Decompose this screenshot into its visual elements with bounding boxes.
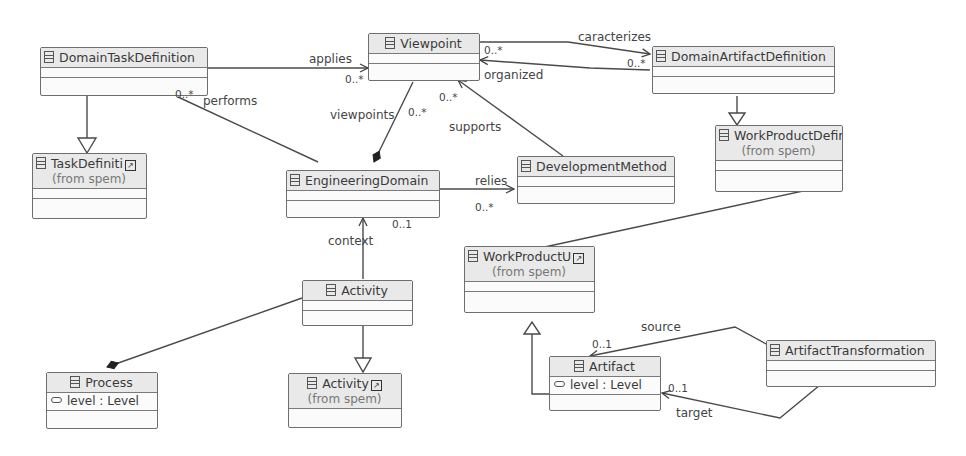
label-viewpoints: viewpoints (330, 108, 395, 122)
attributes-compartment (41, 68, 207, 78)
attribute-level: level : Level (67, 394, 139, 408)
attribute-icon (554, 381, 565, 387)
class-activity[interactable]: Activity (302, 280, 413, 326)
class-icon (770, 344, 780, 356)
class-name: Artifact (589, 359, 635, 374)
attributes-compartment (653, 67, 834, 77)
label-supports: supports (449, 120, 501, 134)
mult-performs: 0..* (175, 88, 194, 100)
mult-viewpoints: 0..* (408, 106, 427, 118)
label-performs: performs (203, 94, 257, 108)
attributes-compartment (369, 54, 479, 64)
class-name: DomainArtifactDefinition (671, 49, 826, 64)
class-engineering-domain[interactable]: EngineeringDomain (286, 170, 440, 218)
class-name: Process (85, 375, 132, 390)
association-process (107, 298, 302, 367)
mult-organized: 0..* (627, 57, 646, 69)
class-origin: (from spem) (292, 392, 397, 407)
operations-compartment (518, 187, 674, 195)
class-domain-artifact-definition[interactable]: DomainArtifactDefinition (652, 46, 835, 94)
mult-relies: 0..* (475, 201, 494, 213)
class-icon (468, 250, 478, 262)
label-relies: relies (475, 174, 507, 188)
operations-compartment (47, 411, 157, 419)
label-source: source (641, 320, 681, 334)
class-icon (656, 50, 666, 62)
class-icon (44, 51, 54, 63)
class-spem-activity[interactable]: Activity↗ (from spem) (288, 373, 402, 428)
class-name: Viewpoint (400, 36, 462, 51)
class-origin: (from spem) (36, 172, 142, 187)
external-link-icon: ↗ (125, 160, 136, 171)
mult-applies: 0..* (345, 73, 364, 85)
association-viewpoints (374, 82, 413, 162)
mult-context: 0..1 (392, 218, 412, 230)
generalization-workproductuse (532, 334, 549, 394)
attributes-compartment (33, 189, 146, 199)
class-icon (36, 157, 46, 169)
class-icon (326, 284, 336, 296)
class-icon (574, 360, 584, 372)
class-work-product-use[interactable]: WorkProductU↗ (from spem) (464, 246, 595, 313)
class-name: Activity (322, 376, 369, 391)
class-artifact-transformation[interactable]: ArtifactTransformation (766, 340, 936, 387)
class-name: WorkProductU (483, 249, 571, 264)
external-link-icon: ↗ (371, 380, 382, 391)
operations-compartment (716, 171, 842, 179)
class-name: DomainTaskDefinition (59, 50, 195, 65)
class-task-definition[interactable]: TaskDefiniti↗ (from spem) (32, 153, 147, 219)
class-icon (719, 129, 729, 141)
operations-compartment (41, 78, 207, 86)
class-name: DevelopmentMethod (536, 159, 667, 174)
operations-compartment (767, 371, 935, 379)
attributes-compartment (287, 191, 439, 201)
class-icon (385, 37, 395, 49)
association-supports (458, 80, 563, 156)
operations-compartment (33, 199, 146, 207)
attributes-compartment (465, 282, 594, 292)
mult-caracterizes: 0..* (484, 44, 503, 56)
external-link-icon: ↗ (573, 253, 584, 264)
label-organized: organized (484, 68, 543, 82)
operations-compartment (287, 201, 439, 209)
operations-compartment (369, 64, 479, 72)
operations-compartment (289, 409, 401, 417)
operations-compartment (303, 311, 412, 319)
class-process[interactable]: Process level : Level (46, 372, 158, 429)
class-name: EngineeringDomain (305, 173, 429, 188)
mult-target: 0..1 (668, 382, 688, 394)
class-icon (290, 174, 300, 186)
class-icon (521, 160, 531, 172)
class-name: WorkProductDefiniti (734, 128, 842, 143)
class-work-product-definition[interactable]: WorkProductDefiniti↗ (from spem) (715, 125, 843, 192)
attribute-level: level : Level (570, 378, 642, 392)
class-name: TaskDefiniti (51, 156, 123, 171)
class-viewpoint[interactable]: Viewpoint (368, 33, 480, 81)
class-development-method[interactable]: DevelopmentMethod (517, 156, 675, 204)
class-icon (307, 377, 317, 389)
class-origin: (from spem) (719, 144, 838, 159)
operations-compartment (653, 77, 834, 85)
class-name: ArtifactTransformation (785, 343, 925, 358)
mult-source: 0..1 (592, 338, 612, 350)
class-origin: (from spem) (468, 265, 590, 280)
attributes-compartment (303, 301, 412, 311)
mult-supports: 0..* (439, 91, 458, 103)
label-applies: applies (309, 52, 352, 66)
operations-compartment (550, 395, 660, 403)
attributes-compartment (767, 361, 935, 371)
label-caracterizes: caracterizes (578, 30, 651, 44)
operations-compartment (465, 292, 594, 300)
class-icon (70, 376, 80, 388)
label-target: target (676, 406, 713, 420)
label-context: context (328, 234, 373, 248)
attributes-compartment (716, 161, 842, 171)
class-name: Activity (341, 283, 388, 298)
class-artifact[interactable]: Artifact level : Level (549, 356, 661, 411)
attribute-icon (51, 397, 62, 403)
attributes-compartment (518, 177, 674, 187)
